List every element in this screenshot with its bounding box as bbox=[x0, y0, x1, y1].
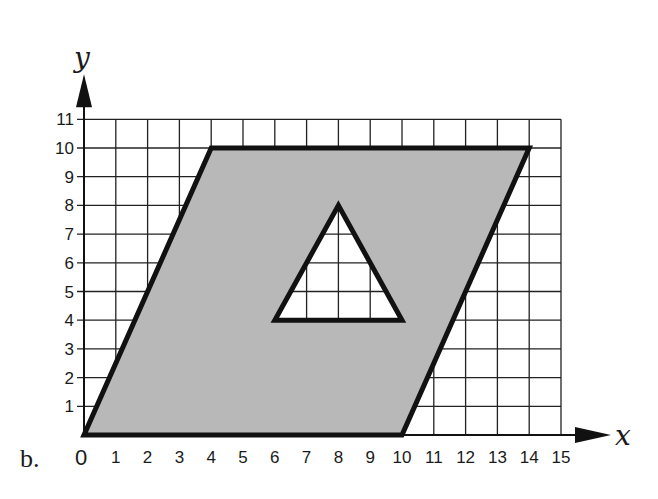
y-tick-label: 9 bbox=[65, 168, 74, 187]
sub-figure-label: b. bbox=[20, 444, 40, 473]
x-tick-label: 8 bbox=[334, 448, 343, 467]
y-tick-label: 1 bbox=[65, 397, 74, 416]
x-tick-label: 4 bbox=[206, 448, 215, 467]
y-tick-label: 8 bbox=[65, 196, 74, 215]
y-tick-label: 11 bbox=[56, 110, 74, 129]
x-tick-label: 13 bbox=[488, 448, 507, 467]
y-tick-label: 4 bbox=[65, 311, 74, 330]
x-tick-label: 1 bbox=[111, 448, 120, 467]
y-tick-label: 5 bbox=[65, 283, 74, 302]
origin-label: 0 bbox=[75, 445, 87, 470]
coordinate-plane: 12345678910111213141512345678910110yxb. bbox=[0, 0, 658, 499]
y-axis-label: y bbox=[72, 41, 91, 74]
y-tick-label: 2 bbox=[65, 369, 74, 388]
x-tick-label: 6 bbox=[270, 448, 279, 467]
y-tick-label: 7 bbox=[65, 225, 74, 244]
x-tick-label: 3 bbox=[175, 448, 184, 467]
y-tick-label: 6 bbox=[65, 254, 74, 273]
x-tick-label: 10 bbox=[393, 448, 412, 467]
x-tick-label: 12 bbox=[456, 448, 475, 467]
x-tick-label: 7 bbox=[302, 448, 311, 467]
x-axis-label: x bbox=[615, 419, 631, 452]
x-tick-label: 11 bbox=[425, 448, 443, 467]
x-tick-label: 5 bbox=[238, 448, 247, 467]
x-tick-label: 9 bbox=[365, 448, 374, 467]
x-tick-label: 2 bbox=[143, 448, 152, 467]
y-tick-label: 10 bbox=[55, 139, 74, 158]
y-axis-arrow-icon bbox=[76, 74, 92, 107]
x-tick-label: 14 bbox=[520, 448, 539, 467]
x-tick-label: 15 bbox=[552, 448, 571, 467]
y-tick-label: 3 bbox=[65, 340, 74, 359]
x-axis-arrow-icon bbox=[575, 427, 611, 443]
